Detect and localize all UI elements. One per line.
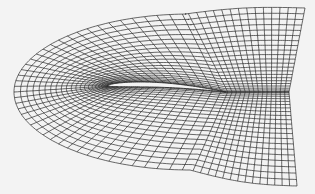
figure-canvas [0, 0, 315, 194]
mesh-line [289, 92, 297, 186]
mesh-line [215, 92, 241, 177]
c-grid-mesh-diagram [0, 0, 315, 194]
mesh-line [197, 13, 232, 93]
mesh-line [15, 85, 109, 86]
grid-lines [14, 7, 305, 186]
mesh-line [223, 92, 246, 178]
